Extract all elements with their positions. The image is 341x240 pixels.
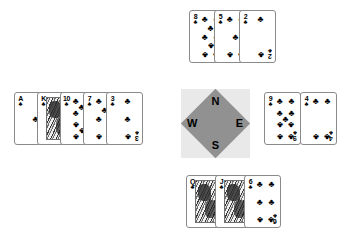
card-corner-index: 7♣ <box>86 95 94 107</box>
compass-rose: N W E S <box>181 89 250 158</box>
card-pip-area: ♣♣ <box>250 19 271 54</box>
suit-pip-club: ♣ <box>73 132 79 141</box>
card-corner-index: A♣ <box>17 95 25 107</box>
suit-pip-club: ♣ <box>277 97 283 106</box>
card-corner-index: 10♣ <box>63 95 71 107</box>
card-corner-index: 2♣ <box>242 13 250 25</box>
card-corner-index: 9♣ <box>267 95 275 107</box>
suit-pip-club: ♣ <box>268 215 274 224</box>
suit-pip-club: ♣ <box>324 97 330 106</box>
suit-pip-club: ♣ <box>288 97 294 106</box>
suit-pip-club: ♣ <box>288 108 294 117</box>
suit-pip-club: ♣ <box>125 97 131 106</box>
suit-pip-club: ♣ <box>208 41 214 50</box>
compass-label-east: E <box>236 118 243 129</box>
suit-pip-club: ♣ <box>73 108 79 117</box>
hand-east: 9♣9♣♣♣♣♣♣♣♣♣♣4♣4♣♣♣♣♣ <box>264 92 337 145</box>
hand-west: A♣A♣♣K♣K♣10♣10♣♣♣♣♣♣♣♣♣♣♣7♣7♣♣♣♣♣♣♣♣3♣3♣… <box>14 92 143 145</box>
suit-pip-club: ♣ <box>227 50 233 59</box>
card-corner-index: 8♣ <box>192 13 200 25</box>
playing-card[interactable]: 2♣2♣♣♣ <box>239 10 276 63</box>
hand-north: 8♣8♣♣♣♣♣♣♣♣♣5♣5♣♣♣♣♣♣2♣2♣♣♣ <box>189 10 276 63</box>
suit-pip-club: ♣ <box>202 50 208 59</box>
card-pip-area: ♣♣♣♣♣♣♣♣♣ <box>275 101 296 136</box>
suit-pip-club: ♣ <box>96 132 102 141</box>
suit-pip-club: ♣ <box>313 132 319 141</box>
suit-pip-club: ♣ <box>313 97 319 106</box>
suit-pip-club: ♣ <box>202 32 208 41</box>
card-corner-index: 6♣ <box>247 178 255 190</box>
compass-label-west: W <box>187 118 197 129</box>
card-corner-index: 5♣ <box>217 13 225 25</box>
compass-label-south: S <box>181 140 250 151</box>
playing-card[interactable]: 6♣6♣♣♣♣♣♣♣ <box>244 175 281 228</box>
bridge-hand-diagram: 8♣8♣♣♣♣♣♣♣♣♣5♣5♣♣♣♣♣♣2♣2♣♣♣ A♣A♣♣K♣K♣10♣… <box>0 0 341 240</box>
playing-card[interactable]: 9♣9♣♣♣♣♣♣♣♣♣♣ <box>264 92 301 145</box>
suit-pip-club: ♣ <box>227 15 233 24</box>
suit-pip-club: ♣ <box>324 132 330 141</box>
card-pip-area: ♣♣♣ <box>117 101 138 136</box>
compass-label-north: N <box>181 96 250 107</box>
card-pip-area: ♣♣♣♣♣♣ <box>255 184 276 219</box>
suit-pip-club: ♣ <box>125 114 131 123</box>
suit-pip-club: ♣ <box>96 114 102 123</box>
suit-pip-club: ♣ <box>288 120 294 129</box>
playing-card[interactable]: 4♣4♣♣♣♣♣ <box>300 92 337 145</box>
suit-pip-club: ♣ <box>258 50 264 59</box>
suit-pip-club: ♣ <box>277 132 283 141</box>
suit-pip-club: ♣ <box>233 32 239 41</box>
suit-pip-club: ♣ <box>73 120 79 129</box>
hand-south: Q♣Q♣J♣J♣6♣6♣♣♣♣♣♣♣ <box>186 175 281 228</box>
suit-pip-club: ♣ <box>288 132 294 141</box>
suit-pip-club: ♣ <box>277 120 283 129</box>
suit-pip-club: ♣ <box>258 15 264 24</box>
card-pip-area: ♣♣♣♣ <box>311 101 332 136</box>
suit-pip-club: ♣ <box>257 180 263 189</box>
suit-pip-club: ♣ <box>268 197 274 206</box>
playing-card[interactable]: 3♣3♣♣♣♣ <box>106 92 143 145</box>
suit-pip-club: ♣ <box>268 180 274 189</box>
suit-pip-club: ♣ <box>125 132 131 141</box>
card-corner-index: 3♣ <box>109 95 117 107</box>
suit-pip-club: ♣ <box>257 197 263 206</box>
card-corner-index: 4♣ <box>303 95 311 107</box>
suit-pip-club: ♣ <box>257 215 263 224</box>
